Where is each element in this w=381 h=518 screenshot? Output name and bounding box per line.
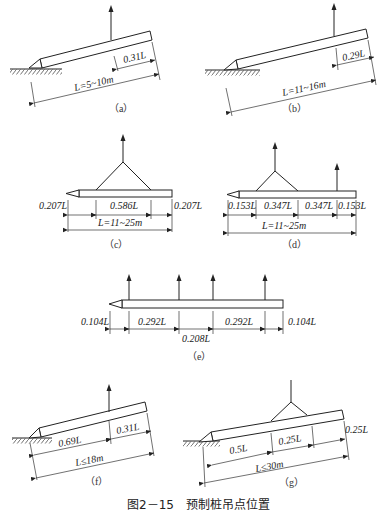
panel-caption: （b） <box>282 103 307 114</box>
dim-label: 0.104L <box>81 316 110 327</box>
pile <box>66 190 172 197</box>
panel-caption: （c） <box>104 239 128 250</box>
pile <box>224 29 368 70</box>
arrowhead-icon <box>211 274 216 281</box>
panel-a: 0.31L L=5~10m （a） <box>10 5 160 114</box>
dim-label: 0.104L <box>288 316 317 327</box>
pile <box>109 300 283 308</box>
sling <box>256 171 298 191</box>
panel-caption: （d） <box>282 239 307 250</box>
pile <box>227 191 356 198</box>
arrowhead-icon <box>335 163 340 170</box>
dim-label: 0.292L <box>138 316 167 327</box>
dim-label: 0.25L <box>345 424 369 435</box>
dim-label: 0.347L <box>264 200 293 211</box>
panel-caption: （e） <box>187 351 211 362</box>
dim-label: 0.153L <box>338 200 367 211</box>
dim-label: 0.586L <box>110 200 139 211</box>
arrowhead-icon <box>177 274 182 281</box>
panel-caption: （f） <box>85 476 108 487</box>
arrowhead-icon <box>121 134 126 141</box>
panel-b: 0.29L L=11~16m （b） <box>205 3 376 116</box>
panel-g: 0.5L 0.25L 0.25L L≤30m （g） <box>183 380 369 488</box>
arrowhead-icon <box>273 142 278 149</box>
dim-label: 0.29L <box>341 47 366 63</box>
arrowhead-icon <box>127 274 132 281</box>
arrowhead-icon <box>263 274 268 281</box>
dim-label: 0.207L <box>174 200 203 211</box>
figure-title: 图2－15 预制桩吊点位置 <box>127 497 270 512</box>
arrowhead-icon <box>109 5 114 12</box>
dim-label: 0.292L <box>225 316 254 327</box>
panel-caption: （a） <box>109 103 133 114</box>
dim-label: 0.153L <box>228 200 257 211</box>
dim-label: 0.208L <box>182 333 211 344</box>
ground-hatch-icon <box>10 70 62 75</box>
dim-label: 0.5L <box>228 442 248 456</box>
panel-caption: （g） <box>279 477 304 488</box>
dim-label: 0.207L <box>39 200 68 211</box>
length-label: L≤18m <box>73 452 104 468</box>
ground-hatch-icon <box>12 439 52 444</box>
panel-f: 0.69L 0.31L L≤18m （f） <box>12 384 154 487</box>
dim-label: 0.25L <box>277 432 302 447</box>
length-label: L=11~25m <box>261 220 306 231</box>
length-label: L≤30m <box>253 458 284 474</box>
length-label: L=11~25m <box>97 217 142 228</box>
sling <box>96 162 151 190</box>
panel-e: 0.104L 0.292L 0.208L 0.292L 0.104L （e） <box>81 274 317 362</box>
arrowhead-icon <box>332 3 337 10</box>
figure-canvas: 0.31L L=5~10m （a） 0.29L L=11~16m （b） <box>0 0 381 518</box>
panel-d: 0.153L 0.347L 0.347L 0.153L L=11~25m （d） <box>227 142 367 250</box>
ground-hatch-icon <box>205 71 260 76</box>
dim-label: 0.347L <box>305 200 334 211</box>
panel-c: 0.207L 0.586L 0.207L L=11~25m （c） <box>39 134 203 250</box>
length-label: L=5~10m <box>72 73 114 93</box>
arrowhead-icon <box>107 384 112 391</box>
dim-label: 0.69L <box>57 434 82 449</box>
length-label: L=11~16m <box>280 78 327 98</box>
